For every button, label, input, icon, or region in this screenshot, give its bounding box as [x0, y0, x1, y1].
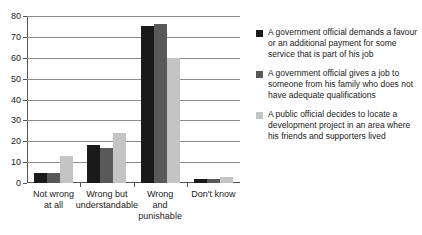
bar-group	[141, 16, 180, 183]
bar	[167, 58, 180, 183]
bar-group	[194, 16, 233, 183]
bar	[100, 148, 113, 183]
x-axis-category-label-line: and	[112, 200, 208, 211]
y-tick-mark	[23, 58, 27, 59]
bar	[60, 156, 73, 183]
legend-entry: A government official demands a favour o…	[256, 27, 422, 60]
y-axis-tick-label: 80	[11, 12, 21, 21]
y-axis-tick-label: 0	[16, 179, 21, 188]
bar	[34, 173, 47, 183]
bar-group	[34, 16, 73, 183]
bar	[113, 133, 126, 183]
bar	[47, 173, 60, 183]
legend-label: A government official gives a job to som…	[268, 68, 422, 101]
bar	[207, 179, 220, 183]
bar-group	[87, 16, 126, 183]
x-tick-mark	[80, 183, 81, 187]
x-tick-mark	[187, 183, 188, 187]
x-axis-category-label-line: punishable	[112, 211, 208, 222]
y-axis-tick-label: 10	[11, 158, 21, 167]
y-tick-mark	[23, 183, 27, 184]
bar-chart-figure: 01020304050607080 Not wrongat allWrong b…	[0, 0, 422, 235]
y-tick-mark	[23, 162, 27, 163]
y-axis-tick-label: 70	[11, 32, 21, 41]
plot-area: 01020304050607080 Not wrongat allWrong b…	[27, 16, 240, 183]
y-axis-tick-label: 60	[11, 53, 21, 62]
y-tick-mark	[23, 37, 27, 38]
legend-swatch-icon	[256, 30, 263, 37]
x-axis-category-label-line: Don't know	[165, 189, 261, 200]
y-axis-tick-label: 40	[11, 95, 21, 104]
chart-legend: A government official demands a favour o…	[256, 27, 422, 150]
x-tick-mark	[134, 183, 135, 187]
y-axis-tick-label: 30	[11, 116, 21, 125]
y-tick-mark	[23, 79, 27, 80]
bar	[154, 24, 167, 183]
legend-label: A public official decides to locate a de…	[268, 109, 422, 142]
legend-swatch-icon	[256, 112, 263, 119]
legend-entry: A government official gives a job to som…	[256, 68, 422, 101]
y-tick-mark	[23, 16, 27, 17]
legend-swatch-icon	[256, 71, 263, 78]
bar	[87, 145, 100, 183]
legend-label: A government official demands a favour o…	[268, 27, 422, 60]
y-tick-mark	[23, 120, 27, 121]
y-axis-tick-label: 50	[11, 74, 21, 83]
y-tick-mark	[23, 100, 27, 101]
legend-entry: A public official decides to locate a de…	[256, 109, 422, 142]
y-axis-tick-label: 20	[11, 137, 21, 146]
bar	[194, 179, 207, 183]
bar	[220, 177, 233, 183]
bar	[141, 26, 154, 183]
x-axis-category-label: Don't know	[165, 189, 261, 200]
y-tick-mark	[23, 141, 27, 142]
